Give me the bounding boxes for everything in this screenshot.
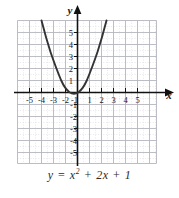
- x-tick-label: -3: [50, 95, 57, 105]
- equation-exponent: 2: [76, 167, 80, 176]
- coordinate-plane: -5 -4 -3 -2 -1 1 2 3 4 5 5 4 3 2 1 -1 -2…: [0, 0, 179, 168]
- x-axis-label: x: [165, 89, 172, 101]
- equation-caption: y = x2 + 2x + 1: [0, 167, 179, 183]
- y-tick-label: -5: [70, 148, 77, 158]
- x-tick-label: 5: [135, 95, 139, 105]
- y-axis-arrowhead: [74, 5, 82, 14]
- y-tick-label: 5: [69, 28, 73, 38]
- x-tick-label: 3: [111, 95, 115, 105]
- equation-constant: 1: [125, 168, 132, 182]
- graph-figure: -5 -4 -3 -2 -1 1 2 3 4 5 5 4 3 2 1 -1 -2…: [0, 0, 179, 198]
- equation-plus-2: +: [112, 168, 121, 182]
- coordinate-plane-svg: -5 -4 -3 -2 -1 1 2 3 4 5 5 4 3 2 1 -1 -2…: [0, 0, 179, 168]
- y-tick-label: -2: [70, 112, 77, 122]
- x-tick-label: 2: [99, 95, 103, 105]
- y-tick-label: 2: [69, 64, 73, 74]
- y-tick-label: 1: [69, 76, 73, 86]
- equation-term-2x: 2x: [96, 168, 108, 182]
- equation-plus-1: +: [83, 168, 92, 182]
- x-tick-label: -4: [38, 95, 46, 105]
- equation-lhs: y: [48, 168, 54, 182]
- y-tick-label: -3: [70, 124, 77, 134]
- y-tick-label: -4: [70, 136, 78, 146]
- x-tick-label: 1: [87, 95, 91, 105]
- x-tick-label: -2: [62, 95, 69, 105]
- y-tick-label: -1: [70, 100, 77, 110]
- equation-equals: =: [57, 168, 66, 182]
- y-tick-label: 3: [69, 52, 73, 62]
- y-axis-label: y: [66, 4, 73, 16]
- x-tick-label: -5: [26, 95, 33, 105]
